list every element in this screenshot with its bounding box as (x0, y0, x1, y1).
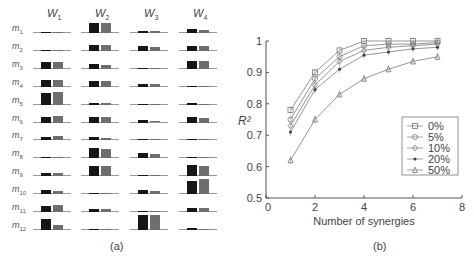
bar-dark-w4-m6 (187, 117, 197, 123)
baseline (130, 50, 168, 51)
marker-star-icon (362, 54, 365, 57)
bar-gray-w3-m10 (150, 191, 160, 194)
column-header-w2: W2 (95, 7, 109, 21)
bar-gray-w1-m2 (53, 50, 63, 51)
baseline (130, 229, 168, 230)
baseline (130, 86, 168, 87)
bar-dark-w4-m8 (187, 157, 197, 158)
bar-gray-w3-m11 (150, 211, 160, 213)
bar-gray-w1-m12 (53, 225, 63, 230)
baseline (33, 157, 71, 158)
row-label-m5: m5 (12, 95, 23, 107)
baseline (179, 175, 217, 176)
y-tick-label: 0.9 (247, 66, 262, 78)
bar-gray-w1-m9 (53, 173, 63, 176)
bar-dark-w1-m7 (41, 137, 51, 141)
baseline (81, 229, 119, 230)
bar-dark-w1-m5 (41, 93, 51, 104)
bar-gray-w4-m6 (199, 118, 209, 123)
synergy-weights-panel: W1W2W3W4m1m2m3m4m5m6m7m8m9m10m11m12 (0, 0, 230, 262)
baseline (179, 193, 217, 194)
y-axis-label: R² (238, 114, 252, 128)
baseline (130, 139, 168, 140)
bar-gray-w3-m8 (150, 154, 160, 159)
marker-star-icon (436, 46, 439, 49)
bar-gray-w2-m2 (101, 45, 111, 51)
r2-line-chart-panel: 0.50.60.70.80.9102468Number of synergies… (230, 0, 474, 262)
bar-gray-w1-m8 (53, 157, 63, 158)
bar-gray-w4-m2 (199, 46, 209, 51)
baseline (179, 229, 217, 230)
bar-gray-w4-m5 (199, 104, 209, 105)
marker-star-icon (313, 88, 316, 91)
bar-dark-w2-m5 (89, 103, 99, 104)
baseline (33, 139, 71, 140)
baseline (33, 175, 71, 176)
baseline (179, 122, 217, 123)
r2-chart: 0.50.60.70.80.9102468Number of synergies… (230, 0, 474, 262)
baseline (81, 157, 119, 158)
bar-dark-w2-m6 (89, 117, 99, 123)
baseline (179, 50, 217, 51)
bar-dark-w3-m7 (138, 139, 148, 140)
bar-dark-w3-m10 (138, 190, 148, 195)
baseline (179, 139, 217, 140)
bar-gray-w3-m9 (150, 175, 160, 176)
baseline (179, 157, 217, 158)
y-tick-label: 0.8 (247, 98, 262, 110)
bar-gray-w2-m7 (101, 138, 111, 140)
bar-dark-w1-m2 (41, 50, 51, 51)
bar-dark-w3-m8 (138, 153, 148, 158)
bar-gray-w2-m10 (101, 193, 111, 194)
bar-dark-w1-m11 (41, 206, 51, 212)
bar-gray-w3-m1 (150, 31, 160, 33)
bar-dark-w2-m11 (89, 209, 99, 212)
row-label-m2: m2 (12, 41, 23, 53)
bar-gray-w1-m10 (53, 191, 63, 194)
bar-gray-w4-m9 (199, 166, 209, 177)
baseline (179, 104, 217, 105)
bar-dark-w1-m3 (41, 62, 51, 69)
bar-dark-w2-m2 (89, 45, 99, 51)
baseline (179, 211, 217, 212)
bar-gray-w3-m6 (150, 121, 160, 123)
bar-gray-w4-m3 (199, 61, 209, 69)
baseline (130, 175, 168, 176)
baseline (81, 122, 119, 123)
y-tick-label: 0.7 (247, 129, 262, 141)
marker-star-icon (411, 47, 414, 50)
bar-dark-w4-m1 (187, 29, 197, 34)
baseline (33, 211, 71, 212)
baseline (130, 122, 168, 123)
bar-gray-w1-m7 (53, 136, 63, 141)
row-label-m8: m8 (12, 148, 23, 160)
bar-gray-w4-m12 (199, 229, 209, 230)
y-tick-label: 1 (256, 35, 262, 47)
bar-gray-w4-m11 (199, 208, 209, 212)
baseline (179, 86, 217, 87)
bar-gray-w3-m12 (150, 215, 160, 230)
row-label-m1: m1 (12, 23, 23, 35)
bar-gray-w2-m1 (101, 23, 111, 33)
bar-dark-w4-m11 (187, 208, 197, 213)
row-label-m10: m10 (12, 184, 26, 196)
bar-gray-w2-m9 (101, 166, 111, 177)
bar-dark-w3-m9 (138, 175, 148, 176)
bar-dark-w4-m12 (187, 228, 197, 230)
baseline (33, 50, 71, 51)
bar-dark-w2-m10 (89, 193, 99, 194)
bar-gray-w2-m3 (101, 65, 111, 69)
legend-marker-star-icon (413, 157, 416, 160)
baseline (33, 229, 71, 230)
bar-dark-w4-m2 (187, 46, 197, 51)
baseline (81, 175, 119, 176)
baseline (33, 32, 71, 33)
column-header-w4: W4 (193, 7, 207, 21)
baseline (130, 157, 168, 158)
bar-dark-w3-m5 (138, 104, 148, 105)
baseline (81, 211, 119, 212)
bar-dark-w4-m4 (187, 86, 197, 87)
bar-dark-w4-m7 (187, 139, 197, 140)
panel-a-caption: (a) (110, 240, 123, 252)
baseline (81, 32, 119, 33)
